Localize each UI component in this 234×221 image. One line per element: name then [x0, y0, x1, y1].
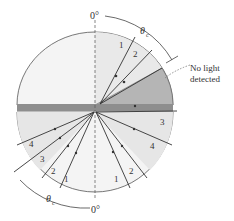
svg-text:1: 1 — [119, 40, 124, 50]
svg-text:c: c — [52, 200, 55, 206]
svg-text:2: 2 — [133, 49, 138, 59]
theta-bottom-label: θ — [46, 193, 51, 204]
svg-text:2: 2 — [51, 166, 56, 176]
top-zero-label: 0° — [90, 10, 99, 21]
bottom-zero-label: 0° — [91, 204, 100, 215]
svg-text:1: 1 — [114, 174, 119, 184]
no-light-label-1: No light — [190, 63, 220, 73]
svg-text:c: c — [146, 32, 149, 38]
svg-text:2: 2 — [129, 166, 134, 176]
svg-text:3: 3 — [40, 154, 45, 164]
refraction-diagram: 0° θ c No light detected 1 2 4 3 2 1 1 2… — [0, 0, 234, 221]
svg-text:4: 4 — [150, 141, 155, 151]
svg-text:1: 1 — [64, 174, 69, 184]
no-light-label-2: detected — [190, 74, 220, 84]
svg-text:4: 4 — [29, 139, 34, 149]
svg-text:3: 3 — [160, 117, 165, 127]
pointer-line — [165, 65, 190, 78]
theta-top-label: θ — [140, 25, 145, 36]
